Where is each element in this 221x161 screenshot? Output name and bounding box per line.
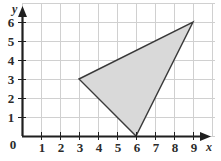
y-axis [18,6,27,136]
y-tick-label-2: 2 [4,92,18,105]
coordinate-plane-svg [0,0,221,161]
x-tick-label-2: 2 [54,141,68,154]
y-tick-label-4: 4 [4,54,18,67]
origin-label: 0 [6,138,20,151]
x-tick-label-5: 5 [111,141,125,154]
y-tick-label-1: 1 [4,111,18,124]
x-tick-label-3: 3 [73,141,87,154]
x-tick-label-6: 6 [130,141,144,154]
x-tick-label-9: 9 [187,141,201,154]
x-tick-label-8: 8 [168,141,182,154]
y-tick-label-6: 6 [4,16,18,29]
y-tick-label-5: 5 [4,35,18,48]
y-axis-label: y [12,3,17,15]
coordinate-plane-figure: 6 5 4 3 2 1 0 1 2 3 4 5 6 7 8 9 y x [0,0,221,161]
x-tick-label-7: 7 [149,141,163,154]
x-tick-label-1: 1 [35,141,49,154]
y-tick-label-3: 3 [4,73,18,86]
x-axis-label: x [206,141,212,153]
x-tick-label-4: 4 [92,141,106,154]
